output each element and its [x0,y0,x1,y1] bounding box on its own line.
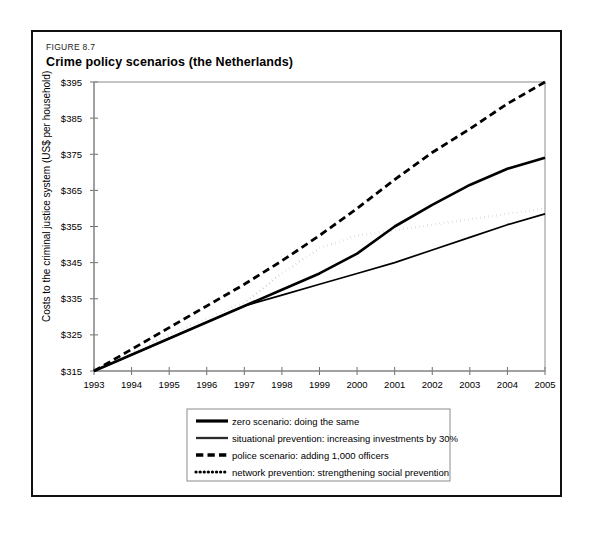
legend-item[interactable]: network prevention: strengthening social… [196,467,449,478]
y-axis-tick-label: $335 [61,293,82,304]
chart-series-group [94,82,545,371]
y-axis-tick-label: $325 [61,329,82,340]
x-axis-tick-label: 1995 [159,379,180,390]
y-axis-tick-label: $355 [61,221,82,232]
y-axis-tick-label: $345 [61,257,82,268]
x-axis-tick-label: 2001 [384,379,405,390]
y-axis-tick-label: $375 [61,149,82,160]
legend-item[interactable]: situational prevention: increasing inves… [196,433,459,444]
x-axis-tick-label: 1998 [271,379,292,390]
legend-item-label: situational prevention: increasing inves… [232,433,459,444]
series-line-3 [94,82,545,371]
x-axis-tick-label: 1999 [309,379,330,390]
x-axis-tick-label: 1997 [234,379,255,390]
x-axis-tick-label: 1996 [196,379,217,390]
legend-item-label: zero scenario: doing the same [232,416,359,427]
x-axis-tick-label: 2000 [347,379,368,390]
y-axis-title: Costs to the criminal justice system (US… [41,71,52,322]
x-axis-tick-label: 2004 [497,379,518,390]
y-axis-tick-label: $385 [61,113,82,124]
y-axis-tick-label: $365 [61,185,82,196]
chart-legend: zero scenario: doing the samesituational… [187,409,459,481]
figure-frame: FIGURE 8.7 Crime policy scenarios (the N… [31,30,562,497]
x-axis-tick-label: 2005 [534,379,555,390]
x-axis-tick-label: 2002 [422,379,443,390]
y-axis-tick-label: $315 [61,366,82,377]
chart-svg: Costs to the criminal justice system (US… [33,32,564,499]
x-axis-tick-label: 2003 [459,379,480,390]
y-axis-title-text: Costs to the criminal justice system (US… [41,71,52,322]
y-axis-tick-labels: $315$325$335$345$355$365$375$385$395 [61,77,82,377]
x-axis-tick-label: 1993 [83,379,104,390]
x-axis-tick-label: 1994 [121,379,142,390]
series-line-2 [94,214,545,371]
line-chart: Costs to the criminal justice system (US… [33,32,564,499]
series-line-4 [94,208,545,371]
series-line-1 [94,158,545,371]
legend-item-label: police scenario: adding 1,000 officers [232,450,389,461]
x-axis-tick-labels: 1993199419951996199719981999200020012002… [83,379,555,390]
legend-item-label: network prevention: strengthening social… [232,467,449,478]
y-axis-tick-label: $395 [61,77,82,88]
